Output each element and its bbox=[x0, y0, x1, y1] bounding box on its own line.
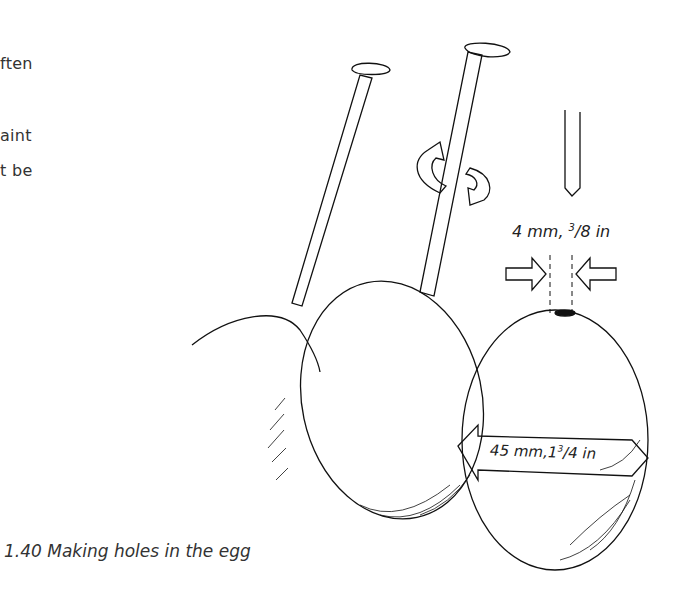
diameter-arrows bbox=[506, 255, 616, 313]
figure-caption: 1.40 Making holes in the egg bbox=[4, 541, 251, 561]
hole-diameter-label: 4 mm, 3/8 in bbox=[512, 222, 610, 241]
nail-1 bbox=[292, 63, 390, 306]
egg-width-label: 45 mm,13/4 in bbox=[490, 441, 597, 463]
egg-hole-illustration bbox=[0, 0, 686, 612]
nail-2-rotating bbox=[420, 43, 510, 296]
drill-bit bbox=[565, 110, 580, 196]
